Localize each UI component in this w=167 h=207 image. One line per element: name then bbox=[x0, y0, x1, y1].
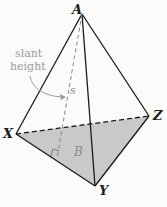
vertex-label-x: X bbox=[3, 126, 13, 141]
vertex-label-y: Y bbox=[99, 183, 108, 198]
edge-az bbox=[82, 14, 149, 116]
edge-ax bbox=[16, 14, 82, 134]
vertex-label-a: A bbox=[72, 2, 82, 17]
base-label: B bbox=[74, 145, 83, 159]
pyramid-figure bbox=[0, 0, 167, 207]
annotation-line1: slant bbox=[15, 47, 42, 60]
slant-label: s bbox=[70, 84, 76, 97]
pyramid-diagram: A X Z Y B s slant height bbox=[0, 0, 167, 207]
annotation-line2: height bbox=[10, 60, 46, 73]
vertex-label-z: Z bbox=[153, 108, 163, 123]
arrow-head-icon bbox=[60, 94, 66, 100]
